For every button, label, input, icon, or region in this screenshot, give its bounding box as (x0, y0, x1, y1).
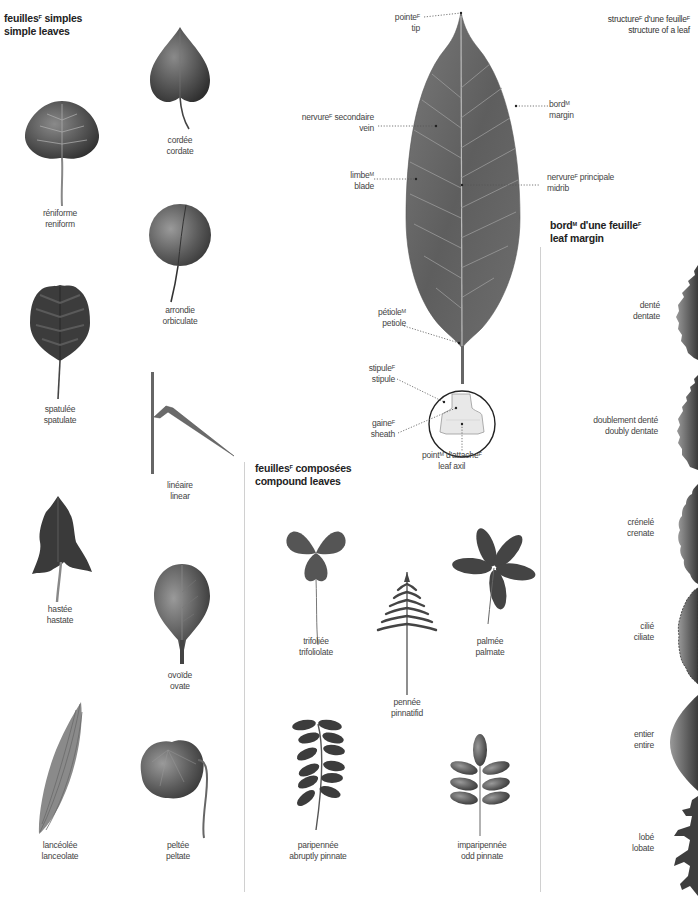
label-leaf-axil: pointM d'attacheF leaf axil (422, 450, 482, 472)
caption-crenate: crénelécrenate (627, 517, 654, 539)
label-sheath: gaineF sheath (371, 418, 395, 440)
caption-palmate: palméepalmate (450, 636, 530, 658)
caption-entire: entierentire (634, 729, 654, 751)
label-tip: pointeF tip (395, 12, 420, 34)
label-vein: nervureF secondaire vein (302, 112, 374, 134)
entire-margin-illustration (668, 695, 698, 791)
abruptly-pinnate-leaf-illustration (290, 718, 350, 832)
caption-abruptly-pinnate: paripennéeabruptly pinnate (276, 840, 360, 862)
caption-trifoliolate: trifoliéetrifoliolate (276, 636, 356, 658)
caption-odd-pinnate: imparipennéeodd pinnate (440, 840, 524, 862)
pinnatifid-leaf-illustration (374, 570, 440, 696)
trifoliolate-leaf-illustration (284, 525, 348, 647)
caption-ciliate: ciliéciliate (634, 621, 654, 643)
caption-lobate: lobélobate (632, 832, 654, 854)
caption-dentate: dentédentate (633, 300, 660, 322)
label-stipule: stipuleF stipule (369, 363, 395, 385)
palmate-leaf-illustration (454, 526, 532, 626)
odd-pinnate-leaf-illustration (444, 734, 516, 838)
doubly-dentate-margin-illustration (672, 375, 698, 470)
caption-pinnatifid: pennéepinnatifid (367, 697, 447, 719)
label-midrib: nervureF principale midrib (547, 172, 614, 194)
label-margin: bordM margin (549, 99, 574, 121)
label-blade: limbeM blade (350, 170, 374, 192)
ciliate-margin-illustration (672, 588, 698, 684)
label-petiole: pétioleM petiole (378, 307, 406, 329)
dentate-margin-illustration (670, 265, 698, 360)
caption-doubly-dentate: doublement dentédoubly dentate (593, 415, 658, 437)
lobate-margin-illustration (668, 796, 698, 896)
crenate-margin-illustration (674, 484, 698, 584)
